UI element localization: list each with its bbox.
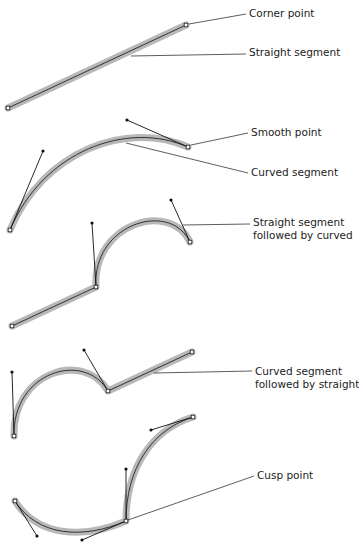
label-curved-segment: Curved segment	[251, 166, 338, 179]
direction-point-icon	[35, 534, 38, 537]
leader-straight_segment	[131, 54, 246, 56]
leader-smooth_point	[191, 133, 248, 145]
label-smooth-point: Smooth point	[251, 126, 322, 139]
label-line: Curved segment	[255, 365, 359, 378]
label-cusp-point: Cusp point	[257, 469, 313, 482]
anchor-point-icon	[190, 350, 194, 354]
label-line: followed by curved	[253, 229, 353, 242]
leader-curved_then_straight	[154, 371, 252, 373]
leader-corner_point	[189, 14, 246, 24]
direction-point-icon	[124, 467, 127, 470]
label-line: followed by straight	[255, 378, 359, 391]
direction-point-icon	[80, 538, 83, 541]
direction-point-icon	[41, 149, 44, 152]
direction-line	[127, 120, 188, 147]
bezier-paths	[8, 25, 193, 532]
anchor-point-icon	[13, 499, 17, 503]
leader-straight_then_curved	[183, 224, 250, 225]
anchor-point-icon	[184, 23, 188, 27]
direction-point-icon	[82, 348, 85, 351]
path-halos	[8, 25, 193, 532]
label-straight-segment: Straight segment	[249, 46, 340, 59]
direction-point-icon	[169, 198, 172, 201]
label-corner-point: Corner point	[249, 7, 314, 20]
label-line: Straight segment	[253, 216, 353, 229]
label-curved-followed-by-straight: Curved segment followed by straight	[255, 365, 359, 391]
anchor-point-icon	[12, 434, 16, 438]
leader-cusp_point	[128, 476, 254, 520]
label-line: Corner point	[249, 7, 314, 20]
leader-lines	[126, 14, 254, 520]
label-line: Cusp point	[257, 469, 313, 482]
label-line: Straight segment	[249, 46, 340, 59]
anchor-point-icon	[10, 324, 14, 328]
anchor-point-icon	[124, 519, 128, 523]
anchor-point-icon	[188, 240, 192, 244]
curve_then_straight-path	[14, 352, 192, 436]
direction-point-icon	[10, 370, 13, 373]
direction-point-icon	[149, 428, 152, 431]
anchor-point-icon	[6, 106, 10, 110]
label-line: Curved segment	[251, 166, 338, 179]
anchor-point-icon	[191, 415, 195, 419]
anchor-point-icon	[8, 228, 12, 232]
label-straight-followed-by-curved: Straight segment followed by curved	[253, 216, 353, 242]
direction-line	[171, 200, 190, 242]
straight_line-path	[8, 25, 186, 108]
anchor-point-icon	[106, 389, 110, 393]
direction-point-icon	[125, 118, 128, 121]
anchor-point-icon	[186, 145, 190, 149]
straight_then_curve-halo	[12, 221, 190, 326]
label-line: Smooth point	[251, 126, 322, 139]
cusp_shape-halo	[15, 417, 193, 532]
direction-point-icon	[90, 221, 93, 224]
anchor-point-icon	[94, 285, 98, 289]
